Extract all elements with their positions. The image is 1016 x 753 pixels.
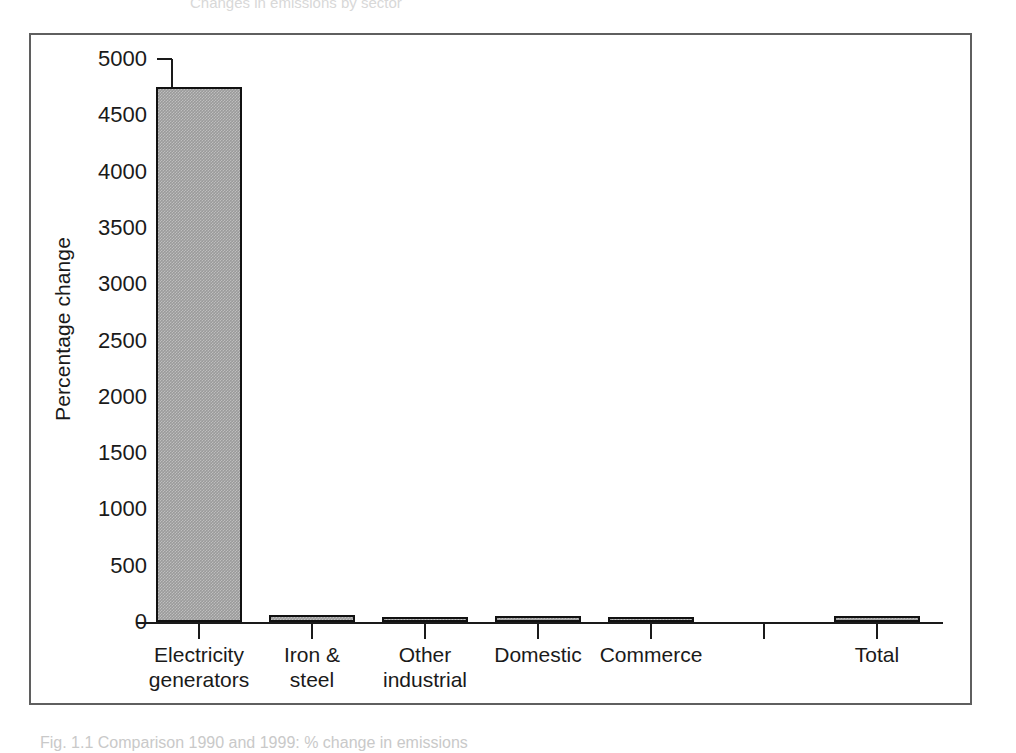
y-tick-label: 2000 [27,386,147,408]
x-tick-mark [537,624,539,639]
bar [834,616,920,622]
y-tick-label: 0 [27,611,147,633]
x-tick-mark [650,624,652,639]
x-tick-label: Total [855,643,899,668]
y-tick-mark [157,58,172,60]
x-tick-mark [876,624,878,639]
bar [269,615,355,622]
x-tick-mark [763,624,765,639]
y-tick-label: 1000 [27,498,147,520]
figure-frame: Percentage change 0500100015002000250030… [29,33,972,705]
bar [495,616,581,622]
y-tick-label: 500 [27,555,147,577]
scan-ghost-header: Changes in emissions by sector [190,0,810,11]
x-tick-label: Commerce [600,643,703,668]
y-tick-label: 5000 [27,48,147,70]
y-tick-label: 3500 [27,217,147,239]
bar [156,87,242,622]
x-tick-mark [198,624,200,639]
x-axis-line [137,622,943,624]
bar [608,617,694,622]
y-tick-label: 1500 [27,442,147,464]
y-tick-label: 3000 [27,273,147,295]
bar [382,617,468,622]
plot-area: Percentage change 0500100015002000250030… [31,35,970,703]
x-tick-label: Other industrial [383,643,467,693]
y-tick-label: 4000 [27,161,147,183]
y-tick-label: 4500 [27,104,147,126]
scan-ghost-caption: Fig. 1.1 Comparison 1990 and 1999: % cha… [40,734,740,752]
x-tick-label: Electricity generators [149,643,249,693]
x-tick-mark [311,624,313,639]
x-tick-mark [424,624,426,639]
x-tick-label: Domestic [494,643,582,668]
x-tick-label: Iron & steel [284,643,340,693]
y-tick-label: 2500 [27,330,147,352]
